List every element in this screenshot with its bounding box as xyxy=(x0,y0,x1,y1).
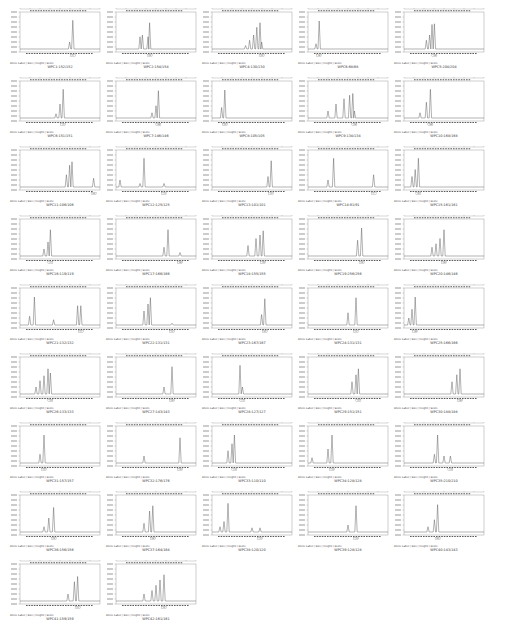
svg-text:143: 143 xyxy=(436,537,439,540)
electropherogram-panel: 154Allele Label | Size | Height | ScoreW… xyxy=(102,4,198,72)
panel-title: WPC2:154/154 xyxy=(116,65,196,69)
panel-title: WPC20:146/146 xyxy=(404,272,484,276)
electropherogram-panel: 143Allele Label | Size | Height | ScoreW… xyxy=(390,487,486,555)
panel-title: WPC39:128/128 xyxy=(308,548,388,552)
electropherogram-panel: 110Allele Label | Size | Height | ScoreW… xyxy=(198,418,294,486)
electropherogram-grid: 152Allele Label | Size | Height | ScoreW… xyxy=(0,0,508,634)
electropherogram-panel: 128Allele Label | Size | Height | ScoreW… xyxy=(294,418,390,486)
panel-title: WPC16:119/119 xyxy=(20,272,100,276)
svg-text:152: 152 xyxy=(71,54,74,57)
electropherogram-panel: 152Allele Label | Size | Height | ScoreW… xyxy=(6,4,102,72)
panel-title: WPC18:155/155 xyxy=(212,272,292,276)
panel-title: WPC15:161/161 xyxy=(404,203,484,207)
svg-text:143: 143 xyxy=(170,399,173,402)
svg-text:120: 120 xyxy=(258,537,261,540)
svg-text:134: 134 xyxy=(353,123,356,126)
svg-text:127: 127 xyxy=(241,399,244,401)
panel-title: WPC35:210/210 xyxy=(404,479,484,483)
electropherogram-panel: 130Allele Label | Size | Height | ScoreW… xyxy=(198,4,294,72)
electropherogram-panel: 166Allele Label | Size | Height | ScoreW… xyxy=(102,211,198,279)
panel-title: WPC32:176/176 xyxy=(116,479,196,483)
svg-text:164: 164 xyxy=(151,537,154,540)
svg-text:110: 110 xyxy=(233,468,236,471)
panel-title: WPC9:134/134 xyxy=(308,134,388,138)
electropherogram-panel: 125Allele Label | Size | Height | ScoreW… xyxy=(102,142,198,210)
panel-title: WPC14:91/91 xyxy=(308,203,388,207)
svg-text:101: 101 xyxy=(270,192,273,195)
panel-title: WPC30:188/188 xyxy=(404,410,484,414)
panel-title: WPC6:68/68 xyxy=(308,65,388,69)
panel-title: WPC1:152/152 xyxy=(20,65,100,69)
svg-text:131: 131 xyxy=(170,330,173,333)
panel-title: WPC21:132/132 xyxy=(20,341,100,345)
electropherogram-panel: 143Allele Label | Size | Height | ScoreW… xyxy=(102,349,198,417)
electropherogram-panel: 155Allele Label | Size | Height | ScoreW… xyxy=(198,211,294,279)
svg-text:256: 256 xyxy=(360,261,363,264)
panel-title: WPC38:120/120 xyxy=(212,548,292,552)
electropherogram-panel: 101Allele Label | Size | Height | ScoreW… xyxy=(198,142,294,210)
svg-text:161: 161 xyxy=(162,606,165,609)
electropherogram-panel: 168Allele Label | Size | Height | ScoreW… xyxy=(390,73,486,141)
panel-title: WPC11:106/106 xyxy=(20,203,100,207)
svg-text:133: 133 xyxy=(49,399,52,402)
electropherogram-panel: 68Allele Label | Size | Height | ScoreWP… xyxy=(294,4,390,72)
svg-text:131: 131 xyxy=(354,330,357,333)
svg-text:210: 210 xyxy=(449,468,452,471)
panel-title: WPC29:151/151 xyxy=(308,410,388,414)
panel-title: WPC10:168/168 xyxy=(404,134,484,138)
electropherogram-panel: 119Allele Label | Size | Height | ScoreW… xyxy=(6,211,102,279)
electropherogram-panel: 132Allele Label | Size | Height | ScoreW… xyxy=(6,280,102,348)
electropherogram-panel: 159Allele Label | Size | Height | ScoreW… xyxy=(6,556,102,624)
electropherogram-panel: 188Allele Label | Size | Height | ScoreW… xyxy=(390,349,486,417)
electropherogram-panel: 167Allele Label | Size | Height | ScoreW… xyxy=(198,280,294,348)
panel-title: WPC27:143/143 xyxy=(116,410,196,414)
panel-title: WPC31:157/157 xyxy=(20,479,100,483)
electropherogram-panel: 156Allele Label | Size | Height | ScoreW… xyxy=(6,487,102,555)
electropherogram-panel: 128Allele Label | Size | Height | ScoreW… xyxy=(294,487,390,555)
panel-title: WPC5:204/204 xyxy=(404,65,484,69)
panel-title: WPC19:256/256 xyxy=(308,272,388,276)
svg-text:106: 106 xyxy=(92,192,95,195)
electropherogram-panel: 161Allele Label | Size | Height | ScoreW… xyxy=(390,142,486,210)
panel-title: WPC36:156/156 xyxy=(20,548,100,552)
panel-title: WPC7:146/146 xyxy=(116,134,196,138)
electropherogram-panel: 210Allele Label | Size | Height | ScoreW… xyxy=(390,418,486,486)
svg-text:151: 151 xyxy=(62,123,65,126)
svg-text:159: 159 xyxy=(76,606,79,609)
electropherogram-panel: 134Allele Label | Size | Height | ScoreW… xyxy=(294,73,390,141)
svg-text:161: 161 xyxy=(417,192,420,195)
panel-title: WPC24:131/131 xyxy=(308,341,388,345)
svg-text:188: 188 xyxy=(458,399,461,402)
panel-title: WPC23:167/167 xyxy=(212,341,292,345)
svg-text:176: 176 xyxy=(178,468,181,471)
svg-text:125: 125 xyxy=(162,192,165,195)
panel-title: WPC22:131/131 xyxy=(116,341,196,345)
electropherogram-panel: 157Allele Label | Size | Height | ScoreW… xyxy=(6,418,102,486)
svg-text:91: 91 xyxy=(373,192,375,195)
panel-title: WPC12:125/125 xyxy=(116,203,196,207)
svg-text:166: 166 xyxy=(414,330,417,333)
panel-title: WPC26:133/133 xyxy=(20,410,100,414)
svg-text:128: 128 xyxy=(354,537,357,540)
electropherogram-panel: 146Allele Label | Size | Height | ScoreW… xyxy=(102,73,198,141)
electropherogram-panel: 204Allele Label | Size | Height | ScoreW… xyxy=(390,4,486,72)
electropherogram-panel: 120Allele Label | Size | Height | ScoreW… xyxy=(198,487,294,555)
panel-title: WPC42:161/161 xyxy=(116,617,196,621)
electropherogram-panel: 146Allele Label | Size | Height | ScoreW… xyxy=(390,211,486,279)
svg-text:132: 132 xyxy=(79,330,82,333)
svg-text:157: 157 xyxy=(42,468,45,471)
electropherogram-panel: 91Allele Label | Size | Height | ScoreWP… xyxy=(294,142,390,210)
svg-text:119: 119 xyxy=(49,261,52,264)
electropherogram-panel: 256Allele Label | Size | Height | ScoreW… xyxy=(294,211,390,279)
panel-title: WPC4:130/130 xyxy=(212,65,292,69)
svg-text:130: 130 xyxy=(260,54,263,57)
panel-title: WPC40:143/143 xyxy=(404,548,484,552)
svg-text:156: 156 xyxy=(52,537,55,540)
panel-title: WPC8:105/105 xyxy=(212,134,292,138)
panel-title: WPC28:127/127 xyxy=(212,410,292,414)
panel-title: WPC17:166/166 xyxy=(116,272,196,276)
svg-text:146: 146 xyxy=(442,261,445,264)
svg-text:128: 128 xyxy=(330,468,333,471)
svg-text:204: 204 xyxy=(433,54,436,57)
electropherogram-panel: 166Allele Label | Size | Height | ScoreW… xyxy=(390,280,486,348)
